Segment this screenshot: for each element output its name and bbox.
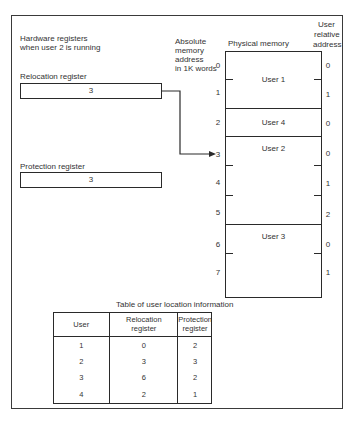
col-header-protection: Protectionregister [178, 312, 212, 337]
tick-mark [226, 195, 233, 196]
rel-heading-line1: User [318, 20, 335, 29]
table-title: Table of user location information [116, 300, 233, 309]
abs-heading-line1: Absolute [175, 37, 206, 46]
abs-heading-line3: address [175, 55, 203, 64]
abs-address: 7 [213, 268, 223, 277]
abs-heading-line4: in 1K words [175, 64, 217, 73]
user-location-table: User Relocationregister Protectionregist… [53, 312, 212, 403]
rel-address: 1 [323, 90, 333, 99]
segment-user-3: User 3 [226, 232, 321, 241]
rel-address: 1 [323, 268, 333, 277]
segment-divider [226, 136, 321, 137]
segment-divider [226, 108, 321, 109]
physical-memory-column: User 1 User 4 User 2 User 3 [225, 51, 322, 298]
rel-heading-line3: address [313, 40, 341, 49]
tick-mark [226, 253, 233, 254]
rel-heading-line2: relative [314, 30, 340, 39]
tick-mark [314, 79, 321, 80]
table-row: 3 6 2 [53, 369, 212, 385]
tick-mark [314, 195, 321, 196]
tick-mark [226, 165, 233, 166]
abs-address: 1 [213, 88, 223, 97]
tick-mark [314, 165, 321, 166]
rel-address: 2 [323, 210, 333, 219]
rel-address: 0 [323, 61, 333, 70]
table-row: 4 2 1 [53, 385, 212, 403]
tick-mark [226, 79, 233, 80]
abs-address: 3 [213, 150, 223, 159]
rel-address: 1 [323, 179, 333, 188]
rel-address: 0 [323, 240, 333, 249]
physical-memory-heading: Physical memory [228, 39, 289, 48]
segment-user-4: User 4 [226, 118, 321, 127]
segment-user-2: User 2 [226, 144, 321, 153]
abs-address: 6 [213, 240, 223, 249]
abs-address: 2 [213, 118, 223, 127]
segment-divider [226, 224, 321, 225]
segment-user-1: User 1 [226, 75, 321, 84]
abs-address: 0 [213, 61, 223, 70]
abs-address: 5 [213, 208, 223, 217]
abs-address: 4 [213, 178, 223, 187]
col-header-user: User [53, 312, 110, 337]
rel-address: 0 [323, 119, 333, 128]
table-row: 2 3 3 [53, 353, 212, 369]
table-row: 1 0 2 [53, 337, 212, 354]
tick-mark [314, 253, 321, 254]
abs-heading-line2: memory [175, 46, 204, 55]
col-header-relocation: Relocationregister [110, 312, 178, 337]
rel-address: 0 [323, 149, 333, 158]
